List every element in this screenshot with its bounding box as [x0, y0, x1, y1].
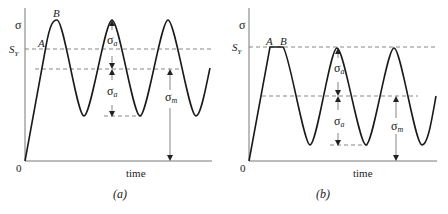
mean-label: σm — [391, 119, 403, 134]
y-axis-label: σ — [239, 18, 246, 32]
panel-a: σ SY A B σa σa σm 0 time (a) — [9, 7, 212, 201]
cyclic-stress-diagram: σ SY A B σa σa σm 0 time (a) σ SY A B — [0, 0, 448, 214]
point-label-a: A — [37, 37, 45, 49]
x-axis-label: time — [353, 167, 373, 179]
amplitude-label-lower: σa — [334, 114, 344, 129]
point-label-b: B — [280, 35, 287, 47]
stress-curve — [25, 20, 210, 161]
origin-label: 0 — [16, 162, 22, 174]
amplitude-label-lower: σa — [107, 84, 117, 99]
mean-label: σm — [165, 90, 177, 105]
panel-b: σ SY A B σa σa σm 0 time (b) — [232, 8, 437, 201]
point-label-a: A — [265, 35, 273, 47]
y-axis-label: σ — [15, 18, 22, 32]
yield-label: SY — [9, 43, 20, 58]
panel-caption: (a) — [113, 187, 127, 201]
point-label-b: B — [53, 7, 60, 19]
panel-caption: (b) — [316, 187, 330, 201]
x-axis-label: time — [126, 167, 146, 179]
amplitude-label-upper: σa — [107, 33, 117, 48]
origin-label: 0 — [240, 162, 246, 174]
stress-curve — [249, 47, 436, 161]
yield-label: SY — [232, 41, 243, 56]
